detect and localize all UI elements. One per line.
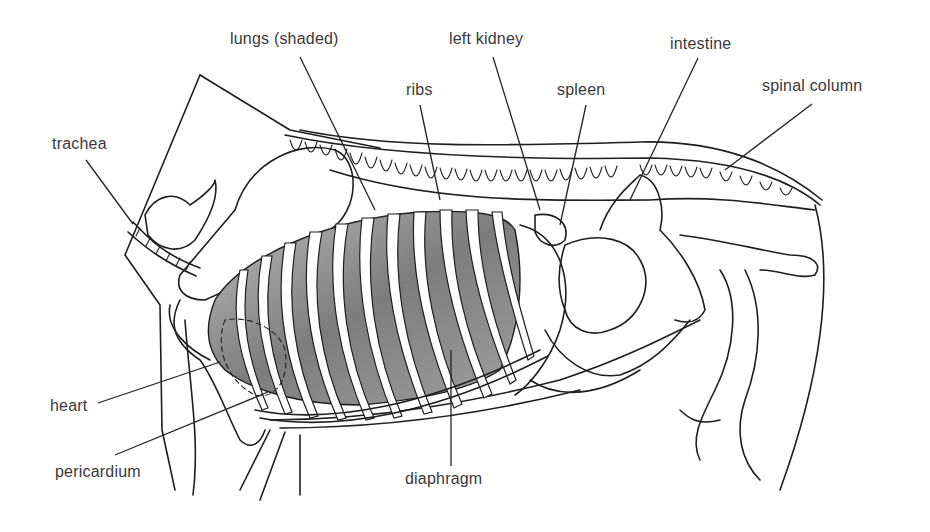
label-spinal-column: spinal column (762, 77, 862, 95)
leader-intestine (630, 58, 698, 200)
anatomy-diagram: trachea lungs (shaded) ribs left kidney … (0, 0, 930, 532)
spinal-column-drawing (285, 135, 820, 210)
label-lungs: lungs (shaded) (230, 30, 339, 48)
label-pericardium: pericardium (55, 463, 141, 481)
label-spleen: spleen (557, 81, 605, 99)
label-intestine: intestine (670, 35, 731, 53)
leader-heart (98, 362, 220, 403)
leader-trachea (86, 160, 133, 224)
label-diaphragm: diaphragm (405, 470, 482, 488)
leader-left-kidney (493, 57, 540, 210)
label-trachea: trachea (52, 135, 107, 153)
leader-spinal-column (725, 104, 812, 170)
trachea-drawing (128, 180, 216, 276)
label-ribs: ribs (406, 81, 433, 99)
leader-spleen (560, 105, 586, 225)
label-heart: heart (50, 397, 87, 415)
leader-pericardium (115, 392, 268, 455)
intestine-drawing (530, 175, 818, 480)
label-left-kidney: left kidney (449, 30, 523, 48)
